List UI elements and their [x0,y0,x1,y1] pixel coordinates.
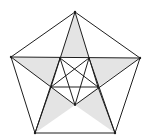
vertex-bottom-right [114,132,116,134]
shaded-triangle-bottom-left [35,87,75,133]
vertex-inner-tl [59,57,61,59]
vertex-right [139,57,141,59]
vertex-top [74,11,76,13]
shaded-triangle-bottom-right [75,87,115,133]
vertex-left [10,56,12,58]
pentagon-star-diagram [0,0,147,138]
vertex-inner-bottom [74,104,76,106]
vertex-inner-left [50,86,52,88]
vertex-inner-right [97,86,99,88]
vertex-bottom-left [34,132,36,134]
vertex-inner-tr [88,57,90,59]
